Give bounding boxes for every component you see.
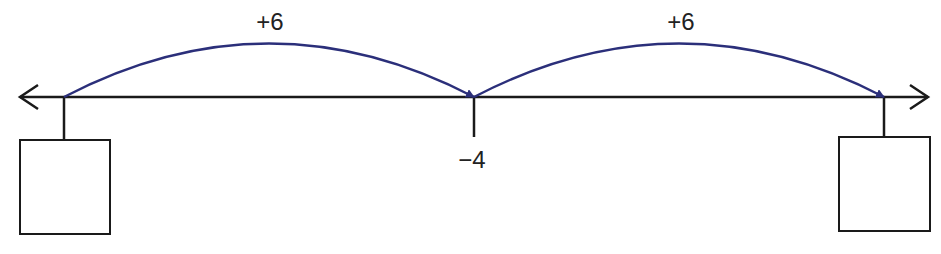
answer-box-left[interactable]	[19, 139, 111, 235]
number-line-graphic	[0, 0, 941, 254]
jump-arc-2	[474, 44, 884, 98]
jump-label-1: +6	[256, 8, 283, 36]
marked-value-label: −4	[458, 146, 485, 174]
answer-box-right[interactable]	[838, 136, 931, 232]
jump-label-2: +6	[667, 8, 694, 36]
jump-arc-1	[64, 44, 474, 98]
